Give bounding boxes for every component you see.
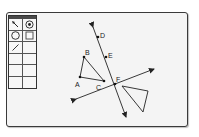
empty-tool-slot[interactable] <box>23 42 37 54</box>
arrow-pointer-icon <box>10 20 21 29</box>
empty-tool-slot[interactable] <box>23 54 37 66</box>
polygon-tool-button[interactable] <box>23 31 37 43</box>
tool-grid <box>9 19 36 88</box>
label-B: B <box>85 49 90 56</box>
point-A[interactable] <box>79 76 82 79</box>
line-tool-button[interactable] <box>9 42 23 54</box>
empty-tool-slot[interactable] <box>9 77 23 89</box>
point-in-circle-icon <box>24 20 35 29</box>
empty-tool-slot[interactable] <box>9 54 23 66</box>
label-E: E <box>108 52 113 59</box>
point-C[interactable] <box>103 80 106 83</box>
point-B[interactable] <box>83 56 86 59</box>
line-segment-icon <box>10 43 21 52</box>
empty-tool-slot[interactable] <box>9 65 23 77</box>
empty-tool-slot[interactable] <box>23 77 37 89</box>
tool-palette <box>8 15 37 89</box>
point-F[interactable] <box>114 83 117 86</box>
line-DEF[interactable] <box>93 27 126 117</box>
point-E[interactable] <box>105 56 108 59</box>
label-D: D <box>100 32 105 39</box>
empty-tool-slot[interactable] <box>23 65 37 77</box>
circle-icon <box>10 31 21 40</box>
triangle-unlabeled[interactable] <box>122 86 148 112</box>
point-D[interactable] <box>97 36 100 39</box>
pointer-tool-button[interactable] <box>9 19 23 31</box>
square-icon <box>24 31 35 40</box>
point-tool-button[interactable] <box>23 19 37 31</box>
label-C: C <box>96 84 101 91</box>
label-F: F <box>116 76 120 83</box>
label-A: A <box>75 81 80 88</box>
circle-tool-button[interactable] <box>9 31 23 43</box>
triangle-ABC[interactable] <box>80 57 104 81</box>
